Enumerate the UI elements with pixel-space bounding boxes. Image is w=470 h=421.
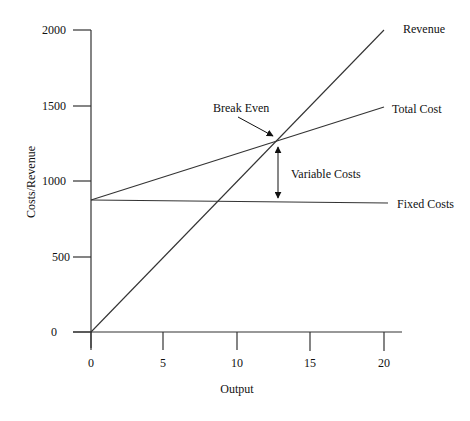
y-axis-label: Costs/Revenue [24,146,38,218]
x-tick-label: 5 [160,356,166,370]
x-tick-label: 15 [304,356,316,370]
y-tick-label: 500 [52,250,70,264]
fixed-costs-line [91,200,388,203]
break-even-label: Break Even [213,101,269,115]
x-axis-label: Output [220,382,254,396]
y-axis: 2000 1500 1000 500 0 Costs/Revenue [24,23,91,348]
y-tick-label: 2000 [42,23,66,37]
revenue-label: Revenue [403,22,445,36]
variable-costs-label: Variable Costs [291,167,361,181]
total-cost-label: Total Cost [392,102,442,116]
total-cost-line [91,107,384,200]
fixed-costs-label: Fixed Costs [397,197,454,211]
y-tick-label: 1500 [42,99,66,113]
x-tick-label: 10 [231,356,243,370]
x-axis: 0 5 10 15 20 Output [73,332,402,396]
x-tick-label: 20 [378,356,390,370]
y-tick-label: 1000 [42,174,66,188]
break-even-chart: 2000 1500 1000 500 0 Costs/Revenue 0 5 1… [0,0,470,421]
y-tick-label: 0 [51,325,57,339]
x-tick-label: 0 [88,356,94,370]
revenue-line [91,30,384,332]
break-even-arrow [238,117,273,136]
